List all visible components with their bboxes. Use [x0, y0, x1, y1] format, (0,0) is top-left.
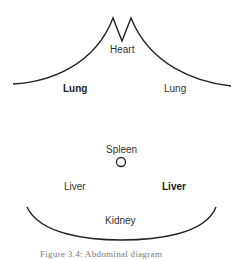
figure-caption: Figure 3.4: Abdominal diagram [40, 249, 162, 259]
lung-left-label: Lung [63, 83, 87, 94]
liver-left-label: Liver [64, 181, 86, 192]
liver-right-label: Liver [162, 181, 186, 192]
spleen-label: Spleen [106, 144, 137, 155]
lung-right-label: Lung [164, 83, 186, 94]
spleen-marker [117, 158, 126, 167]
kidney-label: Kidney [105, 215, 136, 226]
heart-label: Heart [110, 44, 134, 55]
